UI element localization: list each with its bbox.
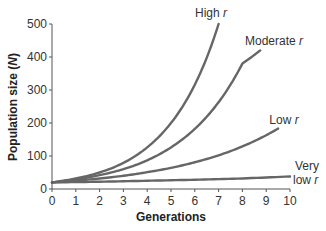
x-axis-title: Generations — [136, 210, 206, 224]
x-tick-label: 8 — [239, 194, 246, 208]
x-tick-label: 1 — [72, 194, 79, 208]
y-tick-label: 100 — [27, 149, 47, 163]
label-moderate-r: Moderate r — [245, 34, 304, 48]
population-growth-chart: 0100200300400500 012345678910 Generation… — [0, 0, 326, 231]
curve-low-r — [52, 129, 278, 183]
x-tick-label: 4 — [144, 194, 151, 208]
y-tick-label: 500 — [27, 17, 47, 31]
y-tick-label: 300 — [27, 83, 47, 97]
axes-group — [52, 24, 290, 189]
x-tick-label: 2 — [96, 194, 103, 208]
x-tick-label: 9 — [263, 194, 270, 208]
curve-moderate-r — [52, 50, 260, 182]
label-very-low-r-line2: low r — [293, 173, 319, 187]
y-tick-label: 200 — [27, 116, 47, 130]
y-axis-title: Population size (N) — [6, 53, 20, 161]
x-tick-label: 10 — [283, 194, 297, 208]
x-tick-label: 6 — [191, 194, 198, 208]
x-tick-label: 5 — [168, 194, 175, 208]
x-tick-label: 3 — [120, 194, 127, 208]
label-high-r: High r — [195, 6, 228, 20]
x-tick-label: 0 — [49, 194, 56, 208]
x-tick-label: 7 — [215, 194, 222, 208]
x-ticks: 012345678910 — [49, 189, 297, 208]
y-ticks: 0100200300400500 — [27, 17, 52, 196]
y-tick-label: 0 — [40, 182, 47, 196]
label-low-r: Low r — [269, 113, 299, 127]
curve-labels: High r Moderate r Low r Very low r — [195, 6, 319, 187]
curve-high-r — [52, 24, 219, 182]
y-tick-label: 400 — [27, 50, 47, 64]
label-very-low-r: Very — [295, 159, 319, 173]
